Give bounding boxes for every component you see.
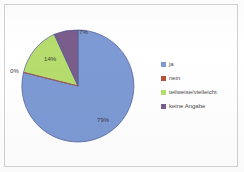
legend-swatch-icon-ja bbox=[161, 62, 166, 67]
pie-svg bbox=[19, 27, 137, 145]
legend-swatch-icon-teilweise-vielleicht bbox=[161, 90, 166, 95]
legend-label-nein: nein bbox=[169, 75, 180, 82]
chart-frame: 79% 0% 14% 7% ja nein teilweise/vielleic… bbox=[4, 4, 238, 167]
pie-graphic bbox=[19, 27, 137, 145]
legend-item-ja[interactable]: ja bbox=[161, 57, 237, 71]
plot-area: 79% 0% 14% 7% ja nein teilweise/vielleic… bbox=[5, 5, 239, 168]
slice-data-label-nein: 0% bbox=[10, 68, 19, 74]
legend-item-keine-angabe[interactable]: keine Angabe bbox=[161, 99, 237, 113]
slice-data-label-teilweise-vielleicht: 14% bbox=[44, 56, 56, 62]
legend-item-teilweise-vielleicht[interactable]: teilweise/vielleicht bbox=[161, 85, 237, 99]
legend-item-nein[interactable]: nein bbox=[161, 71, 237, 85]
legend-swatch-icon-keine-angabe bbox=[161, 104, 166, 109]
pie-chart-screenshot: 79% 0% 14% 7% ja nein teilweise/vielleic… bbox=[0, 0, 244, 172]
legend-label-ja: ja bbox=[169, 61, 174, 68]
slice-data-label-ja: 79% bbox=[97, 117, 109, 123]
legend-label-keine-angabe: keine Angabe bbox=[169, 103, 205, 110]
legend-swatch-icon-nein bbox=[161, 76, 166, 81]
slice-data-label-keine-angabe: 7% bbox=[79, 29, 88, 35]
chart-legend: ja nein teilweise/vielleicht keine Angab… bbox=[161, 57, 237, 113]
legend-label-teilweise-vielleicht: teilweise/vielleicht bbox=[169, 89, 217, 96]
